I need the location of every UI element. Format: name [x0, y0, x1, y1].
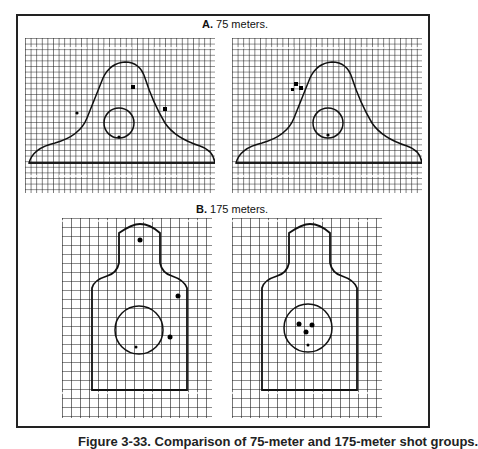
section-b-title: 175 meters. [210, 203, 268, 215]
target-b-left [62, 218, 212, 418]
section-a-heading: A. 75 meters. [202, 18, 268, 30]
target-a-right [232, 38, 422, 193]
figure-caption: Figure 3-33. Comparison of 75-meter and … [78, 434, 478, 449]
target-a-left [25, 38, 215, 193]
section-b-letter: B. [196, 203, 207, 215]
target-b-right [232, 218, 382, 418]
section-a-letter: A. [202, 18, 213, 30]
section-b-heading: B. 175 meters. [196, 203, 268, 215]
section-a-title: 75 meters. [216, 18, 268, 30]
